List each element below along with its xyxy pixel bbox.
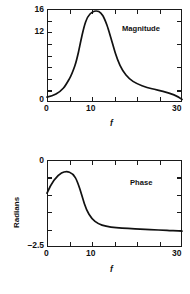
phase-curve (0, 150, 190, 290)
caption-cutoff-strip (0, 288, 190, 294)
figure-two-panel-bode: 16 12 0 0 10 30 Magnitude (0, 0, 190, 294)
magnitude-panel: 16 12 0 0 10 30 Magnitude (0, 0, 190, 135)
magnitude-curve (0, 0, 190, 135)
phase-panel: Radians 0 –2.5 0 10 30 Phase f (0, 150, 190, 290)
